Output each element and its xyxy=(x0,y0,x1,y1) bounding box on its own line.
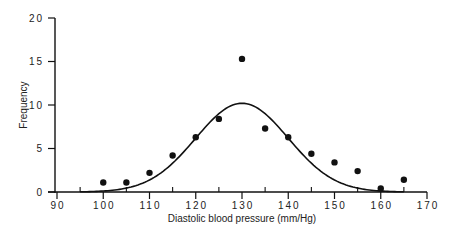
x-tick-label: 130 xyxy=(232,200,255,211)
x-tick-label: 150 xyxy=(324,200,347,211)
data-point xyxy=(146,170,152,176)
data-point xyxy=(100,179,106,185)
x-tick-label: 90 xyxy=(50,200,65,211)
data-point xyxy=(239,56,245,62)
data-point xyxy=(193,134,199,140)
x-tick-label: 110 xyxy=(140,200,162,211)
y-tick-label: 0 xyxy=(36,187,44,198)
data-point xyxy=(262,125,268,131)
data-point xyxy=(123,179,129,185)
x-tick-label: 100 xyxy=(93,200,116,211)
data-point xyxy=(378,185,384,191)
chart: 0510152090100110120130140150160170 Frequ… xyxy=(0,0,456,232)
fitted-curve xyxy=(80,103,404,192)
x-tick-label: 140 xyxy=(278,200,301,211)
y-tick-label: 10 xyxy=(29,100,44,111)
axes xyxy=(48,18,427,193)
y-tick-label: 5 xyxy=(36,143,44,154)
y-axis-label: Frequency xyxy=(18,81,29,128)
data-point xyxy=(216,116,222,122)
x-axis-label: Diastolic blood pressure (mm/Hg) xyxy=(168,213,316,224)
data-point xyxy=(331,159,337,165)
y-tick-label: 20 xyxy=(29,13,44,24)
y-tick-label: 15 xyxy=(29,56,44,67)
data-point xyxy=(308,151,314,157)
ticks: 0510152090100110120130140150160170 xyxy=(29,13,439,212)
data-point xyxy=(285,134,291,140)
x-tick-label: 120 xyxy=(185,200,208,211)
x-tick-label: 160 xyxy=(370,200,393,211)
data-point xyxy=(401,177,407,183)
data-point xyxy=(354,168,360,174)
x-tick-label: 170 xyxy=(417,200,440,211)
data-point xyxy=(169,152,175,158)
data-points xyxy=(100,56,407,192)
